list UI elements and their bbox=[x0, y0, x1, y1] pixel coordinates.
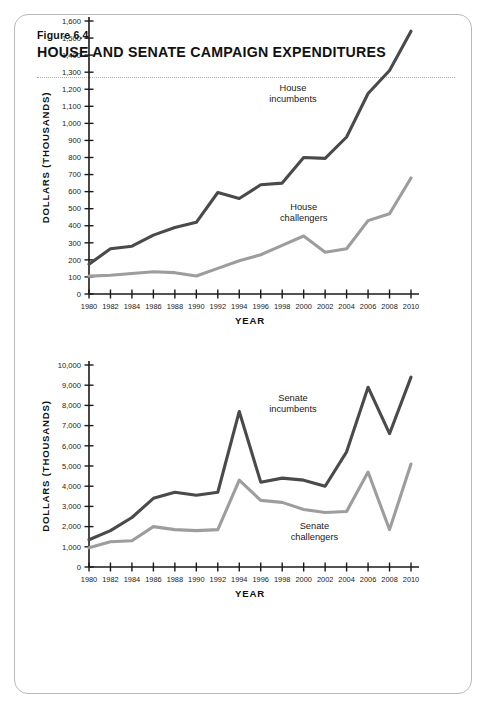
x-tick-label: 1996 bbox=[253, 575, 269, 584]
y-tick-label: 1,200 bbox=[62, 85, 81, 94]
x-tick-label: 1992 bbox=[210, 302, 226, 311]
x-tick-label: 2000 bbox=[295, 575, 311, 584]
x-tick-label: 2008 bbox=[381, 302, 397, 311]
y-tick-label: 10,000 bbox=[58, 361, 81, 370]
series-label-challengers: Senatechallengers bbox=[291, 521, 339, 542]
x-tick-label: 1980 bbox=[81, 575, 97, 584]
y-tick-label: 8,000 bbox=[62, 401, 81, 410]
figure-page: Figure 6.4 HOUSE AND SENATE CAMPAIGN EXP… bbox=[0, 0, 486, 708]
y-tick-label: 1,600 bbox=[62, 17, 81, 26]
y-tick-label: 100 bbox=[68, 273, 81, 282]
house-chart-svg: 01002003004005006007008009001,0001,1001,… bbox=[15, 15, 473, 345]
x-tick-label: 1998 bbox=[274, 302, 290, 311]
x-tick-label: 2004 bbox=[338, 575, 354, 584]
y-tick-label: 200 bbox=[68, 256, 81, 265]
y-tick-label: 3,000 bbox=[62, 502, 81, 511]
y-tick-label: 4,000 bbox=[62, 482, 81, 491]
y-tick-label: 500 bbox=[68, 204, 81, 213]
y-axis-title: DOLLARS (THOUSANDS) bbox=[40, 92, 51, 223]
x-tick-label: 1986 bbox=[145, 302, 161, 311]
x-tick-label: 1980 bbox=[81, 302, 97, 311]
y-tick-label: 6,000 bbox=[62, 442, 81, 451]
series-label-incumbents: Houseincumbents bbox=[269, 83, 317, 104]
y-tick-label: 5,000 bbox=[62, 462, 81, 471]
x-tick-label: 2002 bbox=[317, 302, 333, 311]
y-tick-label: 1,000 bbox=[62, 119, 81, 128]
series-line-incumbents bbox=[89, 377, 411, 540]
y-tick-label: 600 bbox=[68, 187, 81, 196]
y-tick-label: 300 bbox=[68, 239, 81, 248]
x-tick-label: 1994 bbox=[231, 575, 247, 584]
y-tick-label: 9,000 bbox=[62, 381, 81, 390]
y-axis-title: DOLLARS (THOUSANDS) bbox=[40, 400, 51, 531]
y-tick-label: 800 bbox=[68, 153, 81, 162]
series-line-challengers bbox=[89, 464, 411, 548]
y-tick-label: 1,300 bbox=[62, 68, 81, 77]
y-tick-label: 2,000 bbox=[62, 522, 81, 531]
y-tick-label: 700 bbox=[68, 170, 81, 179]
x-tick-label: 1988 bbox=[167, 575, 183, 584]
y-tick-label: 900 bbox=[68, 136, 81, 145]
x-tick-label: 2006 bbox=[360, 302, 376, 311]
x-tick-label: 1982 bbox=[102, 575, 118, 584]
y-tick-label: 7,000 bbox=[62, 421, 81, 430]
y-tick-label: 1,000 bbox=[62, 543, 81, 552]
y-tick-label: 0 bbox=[77, 290, 81, 299]
x-tick-label: 1994 bbox=[231, 302, 247, 311]
x-tick-label: 1982 bbox=[102, 302, 118, 311]
y-tick-label: 400 bbox=[68, 221, 81, 230]
x-tick-label: 2002 bbox=[317, 575, 333, 584]
x-tick-label: 1990 bbox=[188, 302, 204, 311]
x-tick-label: 2010 bbox=[403, 302, 419, 311]
x-tick-label: 1996 bbox=[253, 302, 269, 311]
y-tick-label: 1,100 bbox=[62, 102, 81, 111]
x-tick-label: 1988 bbox=[167, 302, 183, 311]
x-tick-label: 2010 bbox=[403, 575, 419, 584]
senate-chart-svg: 01,0002,0003,0004,0005,0006,0007,0008,00… bbox=[15, 355, 473, 685]
x-tick-label: 1986 bbox=[145, 575, 161, 584]
x-axis-title: YEAR bbox=[235, 315, 265, 326]
x-tick-label: 1990 bbox=[188, 575, 204, 584]
series-label-challengers: Housechallengers bbox=[280, 202, 328, 223]
x-tick-label: 1984 bbox=[124, 575, 140, 584]
x-axis-title: YEAR bbox=[235, 588, 265, 599]
series-label-incumbents: Senateincumbents bbox=[269, 393, 317, 414]
figure-card: Figure 6.4 HOUSE AND SENATE CAMPAIGN EXP… bbox=[14, 14, 472, 694]
x-tick-label: 1998 bbox=[274, 575, 290, 584]
house-chart: 01002003004005006007008009001,0001,1001,… bbox=[15, 15, 473, 345]
x-tick-label: 2008 bbox=[381, 575, 397, 584]
x-tick-label: 1992 bbox=[210, 575, 226, 584]
y-tick-label: 1,400 bbox=[62, 51, 81, 60]
x-tick-label: 2000 bbox=[295, 302, 311, 311]
x-tick-label: 2004 bbox=[338, 302, 354, 311]
x-tick-label: 2006 bbox=[360, 575, 376, 584]
senate-chart: 01,0002,0003,0004,0005,0006,0007,0008,00… bbox=[15, 355, 473, 685]
y-tick-label: 1,500 bbox=[62, 34, 81, 43]
x-tick-label: 1984 bbox=[124, 302, 140, 311]
y-tick-label: 0 bbox=[77, 563, 81, 572]
